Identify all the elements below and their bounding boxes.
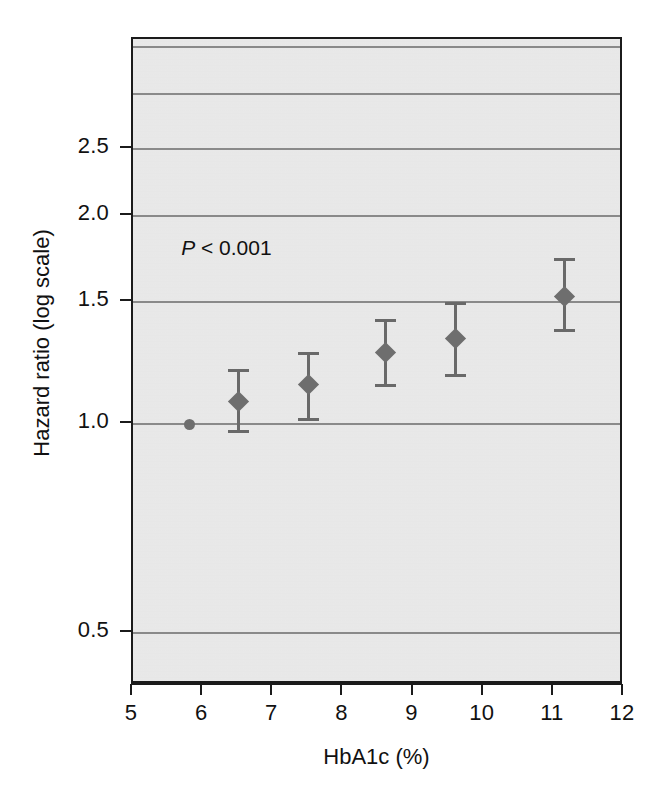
error-bar-lower-cap bbox=[375, 384, 396, 387]
error-bar-lower-cap bbox=[554, 329, 575, 332]
y-axis-tick bbox=[120, 421, 131, 423]
error-bar-upper-cap bbox=[445, 302, 466, 305]
error-bar-lower-cap bbox=[445, 374, 466, 377]
x-axis-line bbox=[131, 683, 622, 685]
gridline bbox=[133, 148, 620, 150]
x-axis-tick-label: 7 bbox=[241, 700, 301, 726]
gridline bbox=[133, 93, 620, 95]
x-axis-tick bbox=[130, 684, 132, 695]
plot-area bbox=[131, 37, 622, 683]
paper-grain-texture bbox=[133, 39, 620, 681]
x-axis-tick-label: 11 bbox=[522, 700, 582, 726]
x-axis-title: HbA1c (%) bbox=[131, 744, 622, 770]
gridline bbox=[133, 46, 620, 48]
error-bar-upper-cap bbox=[375, 319, 396, 322]
data-point-marker bbox=[445, 328, 466, 349]
x-axis-tick-label: 10 bbox=[452, 700, 512, 726]
y-axis-tick bbox=[120, 299, 131, 301]
reference-point-marker bbox=[184, 419, 195, 430]
error-bar-lower-cap bbox=[228, 430, 249, 433]
error-bar-upper-cap bbox=[228, 369, 249, 372]
p-value-annotation: P < 0.001 bbox=[181, 236, 272, 260]
hazard-ratio-chart: 0.51.01.52.02.5 56789101112 Hazard ratio… bbox=[0, 0, 662, 802]
x-axis-tick bbox=[411, 684, 413, 695]
x-axis-tick bbox=[270, 684, 272, 695]
y-axis-tick bbox=[120, 630, 131, 632]
error-bar-upper-cap bbox=[554, 258, 575, 261]
error-bar-upper-cap bbox=[298, 352, 319, 355]
x-axis-tick bbox=[481, 684, 483, 695]
x-axis-tick bbox=[200, 684, 202, 695]
y-axis-tick bbox=[120, 146, 131, 148]
error-bar-lower-cap bbox=[298, 418, 319, 421]
data-point-marker bbox=[554, 286, 575, 307]
gridline bbox=[133, 215, 620, 217]
p-value-text: < 0.001 bbox=[195, 236, 271, 259]
y-axis-tick bbox=[120, 213, 131, 215]
gridline bbox=[133, 423, 620, 425]
x-axis-tick-label: 6 bbox=[171, 700, 231, 726]
x-axis-tick bbox=[621, 684, 623, 695]
x-axis-tick-label: 9 bbox=[382, 700, 442, 726]
x-axis-tick bbox=[340, 684, 342, 695]
data-point-marker bbox=[375, 342, 396, 363]
x-axis-tick-label: 8 bbox=[311, 700, 371, 726]
y-axis-title: Hazard ratio (log scale) bbox=[29, 133, 55, 553]
x-axis-tick bbox=[551, 684, 553, 695]
data-point-marker bbox=[228, 390, 249, 411]
p-value-symbol: P bbox=[181, 236, 195, 259]
data-point-marker bbox=[298, 374, 319, 395]
gridline bbox=[133, 301, 620, 303]
y-axis-tick-label: 0.5 bbox=[21, 617, 109, 643]
x-axis-tick-label: 5 bbox=[101, 700, 161, 726]
x-axis-tick-label: 12 bbox=[592, 700, 652, 726]
gridline bbox=[133, 632, 620, 634]
